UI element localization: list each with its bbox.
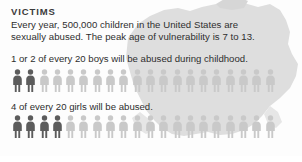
person-figure-icon xyxy=(78,69,89,92)
person-figure-icon xyxy=(172,69,183,92)
person-figure-icon xyxy=(211,69,222,92)
person-figure-icon xyxy=(225,69,236,92)
person-figure-icon xyxy=(25,69,36,92)
person-figure-icon xyxy=(145,69,156,92)
victims-infographic-panel: VICTIMS Every year, 500,000 children in … xyxy=(0,0,302,162)
girls-pictogram-row xyxy=(12,115,294,138)
person-figure-icon xyxy=(251,115,262,138)
person-figure-icon xyxy=(12,69,23,92)
person-figure-icon xyxy=(118,115,129,138)
person-figure-icon xyxy=(105,69,116,92)
person-figure-icon xyxy=(12,115,23,138)
person-figure-icon xyxy=(172,115,183,138)
person-figure-icon xyxy=(198,115,209,138)
person-figure-icon xyxy=(265,115,276,138)
person-figure-icon xyxy=(92,69,103,92)
page-title: VICTIMS xyxy=(11,6,294,18)
girls-stat-caption: 4 of every 20 girls will be abused. xyxy=(11,101,294,113)
intro-paragraph: Every year, 500,000 children in the Unit… xyxy=(11,19,294,42)
person-figure-icon xyxy=(25,115,36,138)
person-figure-icon xyxy=(39,69,50,92)
intro-line-2: sexually abused. The peak age of vulnera… xyxy=(11,31,294,43)
person-figure-icon xyxy=(105,115,116,138)
person-figure-icon xyxy=(238,69,249,92)
person-figure-icon xyxy=(92,115,103,138)
person-figure-icon xyxy=(225,115,236,138)
person-figure-icon xyxy=(158,69,169,92)
person-figure-icon xyxy=(78,115,89,138)
person-figure-icon xyxy=(39,115,50,138)
person-figure-icon xyxy=(65,69,76,92)
person-figure-icon xyxy=(265,69,276,92)
person-figure-icon xyxy=(52,69,63,92)
boys-stat-caption: 1 or 2 of every 20 boys will be abused d… xyxy=(11,53,294,65)
person-figure-icon xyxy=(198,69,209,92)
bottom-trim xyxy=(0,156,302,162)
person-figure-icon xyxy=(185,115,196,138)
intro-line-1: Every year, 500,000 children in the Unit… xyxy=(11,19,294,31)
infographic-content: VICTIMS Every year, 500,000 children in … xyxy=(0,0,302,138)
person-figure-icon xyxy=(185,69,196,92)
person-figure-icon xyxy=(211,115,222,138)
person-figure-icon xyxy=(132,69,143,92)
person-figure-icon xyxy=(158,115,169,138)
person-figure-icon xyxy=(251,69,262,92)
person-figure-icon xyxy=(118,69,129,92)
person-figure-icon xyxy=(132,115,143,138)
person-figure-icon xyxy=(145,115,156,138)
person-figure-icon xyxy=(65,115,76,138)
person-figure-icon xyxy=(238,115,249,138)
boys-pictogram-row xyxy=(12,69,294,92)
person-figure-icon xyxy=(52,115,63,138)
